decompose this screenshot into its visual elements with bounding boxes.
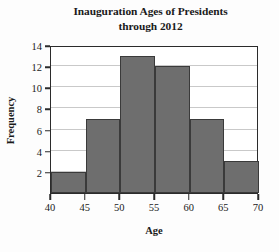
- y-axis-tick: [45, 130, 50, 132]
- chart-title-line-2: through 2012: [28, 19, 273, 34]
- bars-layer: [51, 47, 257, 193]
- y-axis-tick-label: 8: [37, 104, 42, 115]
- y-axis-tick-label: 6: [37, 125, 42, 136]
- x-axis-tick: [188, 194, 190, 200]
- x-axis-title: Age: [50, 225, 258, 236]
- y-axis-tick: [45, 45, 50, 47]
- y-axis-tick: [45, 66, 50, 68]
- histogram-bar: [190, 119, 225, 193]
- y-axis-tick-label: 12: [32, 62, 43, 73]
- x-axis-tick-label: 65: [218, 202, 229, 213]
- x-axis-tick-label: 60: [183, 202, 194, 213]
- x-axis-tick: [153, 194, 155, 200]
- x-axis-tick: [223, 194, 225, 200]
- x-axis-tick-label: 55: [149, 202, 160, 213]
- histogram-bar: [86, 119, 121, 193]
- x-axis-tick: [84, 194, 86, 200]
- y-axis-tick: [45, 172, 50, 174]
- y-axis-tick-label: 14: [32, 41, 43, 52]
- histogram-bar: [51, 172, 86, 193]
- y-axis-tick: [45, 88, 50, 90]
- histogram-figure: Inauguration Ages of Presidents through …: [0, 0, 279, 252]
- histogram-bar: [120, 56, 155, 193]
- y-axis-tick: [45, 151, 50, 153]
- y-axis-tick-label: 4: [37, 146, 42, 157]
- y-axis-tick-label: 2: [37, 167, 42, 178]
- histogram-bar: [224, 161, 259, 193]
- x-axis-tick-label: 70: [253, 202, 264, 213]
- x-axis-tick: [119, 194, 121, 200]
- x-axis-tick-label: 45: [79, 202, 90, 213]
- histogram-bar: [155, 66, 190, 193]
- y-axis-tick-label: 10: [32, 83, 43, 94]
- y-axis-tick: [45, 109, 50, 111]
- chart-title-line-1: Inauguration Ages of Presidents: [28, 4, 273, 19]
- x-axis-tick-label: 50: [114, 202, 125, 213]
- plot-area: [50, 46, 258, 194]
- x-axis-tick: [257, 194, 259, 200]
- y-axis-title: Frequency: [4, 46, 18, 194]
- y-axis-title-label: Frequency: [6, 96, 17, 144]
- x-axis-tick-label: 40: [45, 202, 56, 213]
- chart-title: Inauguration Ages of Presidents through …: [28, 4, 273, 33]
- x-axis-tick: [49, 194, 51, 200]
